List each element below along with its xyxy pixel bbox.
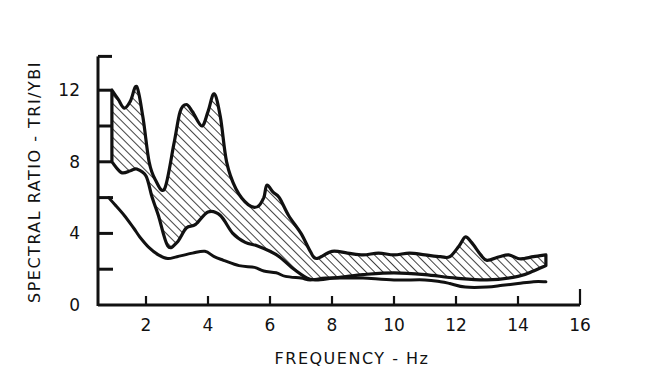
y-tick-labels: 04812 (58, 80, 80, 315)
spectral-ratio-chart: 246810121416 04812 FREQUENCY - Hz SPECTR… (0, 0, 662, 384)
x-tick-label: 12 (445, 315, 467, 335)
band-area (112, 86, 546, 280)
y-tick-label: 12 (58, 80, 80, 100)
x-tick-label: 16 (569, 315, 591, 335)
x-tick-label: 6 (265, 315, 276, 335)
x-tick-label: 8 (327, 315, 338, 335)
hatched-range-band (112, 86, 546, 280)
y-tick-label: 4 (69, 223, 80, 243)
x-tick-label: 2 (141, 315, 152, 335)
y-tick-label: 0 (69, 295, 80, 315)
x-tick-labels: 246810121416 (141, 315, 591, 335)
x-tick-label: 10 (383, 315, 405, 335)
y-tick-label: 8 (69, 152, 80, 172)
x-tick-label: 14 (507, 315, 529, 335)
y-axis-title: SPECTRAL RATIO - TRI/YBI (25, 61, 44, 303)
x-axis-title: FREQUENCY - Hz (275, 349, 430, 368)
x-tick-label: 4 (203, 315, 214, 335)
